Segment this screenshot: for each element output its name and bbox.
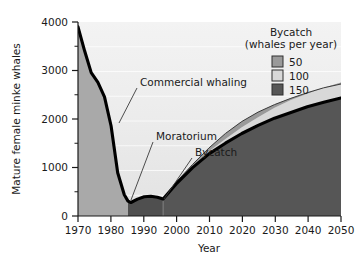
x-tick-label-2040: 2040 [295, 224, 322, 236]
x-tick-label-1990: 1990 [130, 224, 157, 236]
legend-label-50: 50 [289, 56, 302, 68]
legend-label-100: 100 [289, 70, 309, 82]
x-axis-ticks [78, 216, 341, 222]
legend-entry-150[interactable]: 150 [272, 84, 309, 96]
y-axis-title: Mature female minke whales [10, 43, 22, 195]
annotation-commercial-whaling: Commercial whaling [140, 76, 247, 88]
y-tick-label-4000: 4000 [41, 16, 68, 28]
x-tick-label-1980: 1980 [98, 224, 125, 236]
x-tick-label-1970: 1970 [65, 224, 92, 236]
y-tick-label-0: 0 [61, 210, 68, 222]
y-tick-label-2000: 2000 [41, 113, 68, 125]
x-tick-label-2050: 2050 [328, 224, 355, 236]
x-axis-title: Year [197, 242, 221, 254]
y-axis-ticks [72, 22, 78, 216]
x-tick-label-2000: 2000 [163, 224, 190, 236]
y-tick-label-1000: 1000 [41, 161, 68, 173]
legend-title: Bycatch [270, 26, 312, 38]
legend-swatch-100 [272, 70, 283, 81]
legend-label-150: 150 [289, 84, 309, 96]
legend-swatch-150 [272, 84, 283, 95]
legend-entry-100[interactable]: 100 [272, 70, 309, 82]
legend-subtitle: (whales per year) [245, 38, 337, 50]
x-tick-label-2020: 2020 [229, 224, 256, 236]
chart-figure: 4000 3000 2000 1000 0 1970 1980 1990 200… [0, 0, 362, 266]
legend-swatch-50 [272, 56, 283, 67]
x-tick-label-2010: 2010 [196, 224, 223, 236]
x-tick-label-2030: 2030 [262, 224, 289, 236]
minke-whale-population-chart: 4000 3000 2000 1000 0 1970 1980 1990 200… [0, 0, 362, 266]
annotation-bycatch: Bycatch [195, 146, 237, 158]
annotation-moratorium: Moratorium [156, 130, 217, 142]
y-tick-label-3000: 3000 [41, 64, 68, 76]
